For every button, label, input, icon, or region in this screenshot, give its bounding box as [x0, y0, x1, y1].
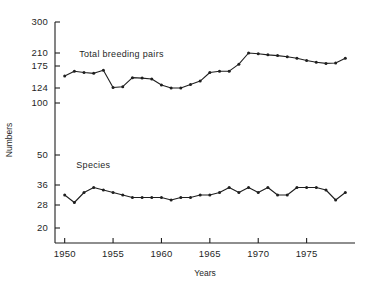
data-point — [102, 189, 105, 192]
data-point — [295, 186, 298, 189]
y-axis-title: Numbers — [4, 123, 14, 157]
data-point — [83, 191, 86, 194]
data-point — [247, 186, 250, 189]
data-point — [92, 186, 95, 189]
data-point — [305, 186, 308, 189]
data-point — [102, 69, 105, 72]
data-point — [199, 80, 202, 83]
y-tick-label: 36 — [37, 179, 48, 190]
data-point — [315, 186, 318, 189]
data-point — [208, 194, 211, 197]
y-tick-label: 300 — [32, 16, 48, 27]
series-species — [63, 186, 347, 204]
x-tick-label: 1955 — [102, 248, 124, 259]
y-tick-label: 210 — [32, 47, 48, 58]
series-label: Total breeding pairs — [79, 49, 164, 59]
data-point — [73, 70, 76, 73]
line-chart: 20283650100124175210300 1950195519601965… — [0, 0, 369, 284]
x-tick-label: 1970 — [247, 248, 269, 259]
series-polyline — [65, 188, 346, 203]
y-tick-label: 28 — [37, 199, 48, 210]
data-point — [334, 199, 337, 202]
data-point — [179, 196, 182, 199]
data-point — [83, 71, 86, 74]
data-point — [324, 189, 327, 192]
data-point — [160, 83, 163, 86]
data-point — [257, 191, 260, 194]
data-point — [112, 86, 115, 89]
data-point — [199, 194, 202, 197]
data-point — [63, 194, 66, 197]
series-layer — [63, 52, 347, 205]
data-point — [257, 52, 260, 55]
series-annotation-layer: Total breeding pairsSpecies — [76, 49, 164, 170]
data-point — [295, 57, 298, 60]
data-point — [276, 194, 279, 197]
data-point — [150, 196, 153, 199]
x-tick-label: 1975 — [296, 248, 318, 259]
x-axis: 195019551960196519701975 — [54, 238, 355, 259]
data-point — [208, 71, 211, 74]
data-point — [160, 196, 163, 199]
x-tick-label: 1960 — [150, 248, 172, 259]
data-point — [112, 191, 115, 194]
data-point — [237, 191, 240, 194]
y-tick-label: 175 — [32, 60, 48, 71]
data-point — [73, 201, 76, 204]
data-point — [179, 87, 182, 90]
data-point — [247, 52, 250, 55]
data-point — [121, 85, 124, 88]
series-label: Species — [76, 160, 110, 170]
data-point — [266, 186, 269, 189]
data-point — [63, 74, 66, 77]
data-point — [334, 62, 337, 65]
data-point — [276, 54, 279, 57]
data-point — [189, 83, 192, 86]
data-point — [150, 77, 153, 80]
data-point — [266, 53, 269, 56]
data-point — [121, 194, 124, 197]
data-point — [305, 59, 308, 62]
data-point — [189, 196, 192, 199]
data-point — [141, 77, 144, 80]
x-tick-label: 1950 — [54, 248, 76, 259]
chart-container: 20283650100124175210300 1950195519601965… — [0, 0, 369, 284]
y-axis: 20283650100124175210300 — [32, 16, 60, 243]
y-tick-label: 20 — [37, 222, 48, 233]
data-point — [92, 72, 95, 75]
x-tick-label: 1965 — [199, 248, 221, 259]
data-point — [218, 70, 221, 73]
data-point — [170, 87, 173, 90]
data-point — [131, 76, 134, 79]
y-tick-label: 50 — [37, 149, 48, 160]
data-point — [237, 63, 240, 66]
data-point — [286, 55, 289, 58]
y-tick-label: 100 — [32, 97, 48, 108]
data-point — [170, 199, 173, 202]
data-point — [141, 196, 144, 199]
data-point — [324, 62, 327, 65]
data-point — [344, 191, 347, 194]
data-point — [315, 61, 318, 64]
data-point — [228, 186, 231, 189]
data-point — [286, 194, 289, 197]
x-axis-title: Years — [194, 268, 215, 278]
x-tick-group: 195019551960196519701975 — [54, 238, 318, 259]
data-point — [344, 57, 347, 60]
data-point — [218, 191, 221, 194]
y-tick-group: 20283650100124175210300 — [32, 16, 60, 233]
y-tick-label: 124 — [32, 82, 48, 93]
data-point — [228, 70, 231, 73]
data-point — [131, 196, 134, 199]
